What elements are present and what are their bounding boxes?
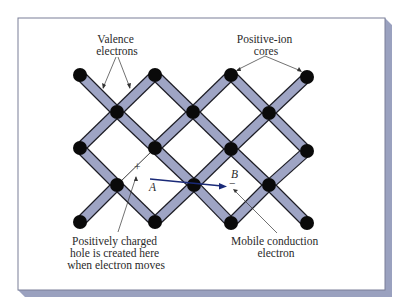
ion-core-node: [186, 105, 200, 119]
ion-core-node: [73, 141, 87, 155]
hole-label: Positively charged hole is created here …: [67, 235, 165, 271]
valence-label: Valence electrons: [96, 33, 138, 57]
ion-core-node: [300, 70, 314, 84]
ion-core-node: [224, 216, 238, 230]
lattice-diagram: Valence electrons Positive-ion cores Pos…: [0, 0, 402, 307]
ion-core-node: [300, 216, 314, 230]
minus-sign: −: [229, 177, 236, 189]
ion-core-node: [187, 178, 201, 192]
ion-core-node: [300, 144, 314, 158]
ion-core-node: [224, 142, 238, 156]
plus-sign: +: [134, 161, 141, 173]
ion-core-node: [110, 105, 124, 119]
ion-core-node: [148, 68, 162, 82]
ion-core-node: [262, 106, 276, 120]
ion-core-node: [73, 215, 87, 229]
ion-core-node: [73, 68, 87, 82]
ion-core-node: [148, 215, 162, 229]
ion-core-node: [110, 178, 124, 192]
ion-core-node: [224, 68, 238, 82]
point-a-label: A: [148, 181, 157, 193]
ion-core-node: [262, 178, 276, 192]
ion-core-node: [148, 141, 162, 155]
